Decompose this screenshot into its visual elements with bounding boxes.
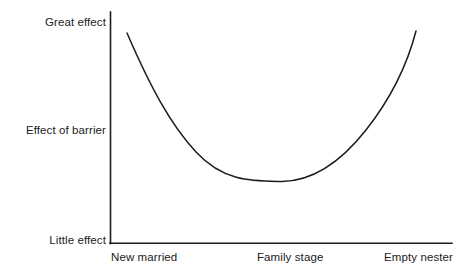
x-axis-label-empty-nester: Empty nester xyxy=(384,251,453,264)
y-axis-label-little-effect: Little effect xyxy=(49,234,106,247)
chart-figure: Great effect Effect of barrier Little ef… xyxy=(0,0,466,277)
y-axis-label-great-effect: Great effect xyxy=(45,16,106,29)
y-axis-label-effect-of-barrier: Effect of barrier xyxy=(26,124,106,137)
x-axis-label-new-married: New married xyxy=(111,251,177,264)
x-axis-label-family-stage: Family stage xyxy=(257,251,323,264)
